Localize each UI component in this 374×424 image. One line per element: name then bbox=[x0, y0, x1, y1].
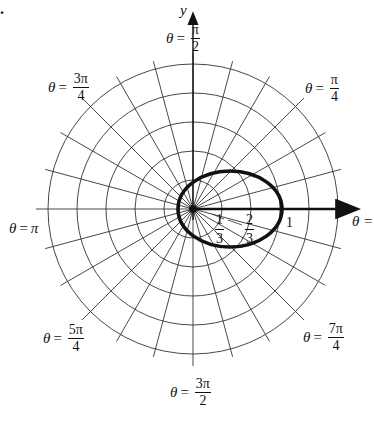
fraction: 5π 4 bbox=[68, 323, 84, 354]
fraction: π 2 bbox=[191, 23, 200, 54]
angle-label-pi-over-4: θ = π 4 bbox=[305, 73, 339, 104]
fraction: 1 3 bbox=[215, 212, 224, 247]
theta-symbol: θ bbox=[170, 385, 177, 400]
numerator: π bbox=[191, 23, 200, 39]
radial-label-one: 1 bbox=[286, 215, 293, 231]
denominator: 4 bbox=[332, 338, 339, 353]
grid-radial-line bbox=[193, 169, 341, 209]
fraction: π 4 bbox=[330, 73, 339, 104]
problem-marker: . bbox=[0, 0, 4, 18]
denominator: 2 bbox=[192, 39, 199, 54]
theta-symbol: θ bbox=[48, 80, 55, 95]
theta-symbol: θ bbox=[9, 221, 16, 236]
leader-two-thirds bbox=[228, 220, 242, 225]
denominator: 4 bbox=[77, 88, 84, 103]
grid-radial-line bbox=[45, 169, 193, 209]
grid-radial-line bbox=[193, 209, 270, 342]
angle-label-3pi-over-4: θ = 3π 4 bbox=[48, 72, 89, 103]
grid-radial-line bbox=[117, 209, 194, 342]
grid-radial-line bbox=[117, 77, 194, 210]
angle-label-7pi-over-4: θ = 7π 4 bbox=[303, 322, 344, 353]
numerator: 2 bbox=[245, 212, 254, 230]
theta-symbol: θ bbox=[305, 81, 312, 96]
equals-sign: = bbox=[176, 31, 184, 46]
equals-sign: = bbox=[315, 81, 323, 96]
origin-dot bbox=[189, 205, 197, 213]
denominator: 4 bbox=[331, 89, 338, 104]
theta-symbol: θ bbox=[43, 331, 50, 346]
fraction: 3π 2 bbox=[195, 377, 211, 408]
numerator: 1 bbox=[215, 212, 224, 230]
grid-radial-line bbox=[193, 209, 326, 286]
fraction: 3π 4 bbox=[73, 72, 89, 103]
angle-label-zero-partial: θ = bbox=[352, 214, 373, 229]
pi-value: π bbox=[31, 221, 39, 236]
denominator: 3 bbox=[216, 230, 223, 247]
grid-radial-line bbox=[45, 209, 193, 249]
grid-radial-line bbox=[193, 77, 270, 210]
equals-sign: = bbox=[180, 385, 188, 400]
numerator: π bbox=[330, 73, 339, 89]
y-axis-label: y bbox=[180, 2, 187, 19]
theta-symbol: θ bbox=[303, 330, 310, 345]
grid-radial-line bbox=[193, 61, 233, 209]
denominator: 2 bbox=[199, 393, 206, 408]
angle-label-pi-over-2: θ = π 2 bbox=[166, 23, 200, 54]
angle-label-pi: θ = π bbox=[9, 221, 38, 236]
equals-sign: = bbox=[53, 331, 61, 346]
grid-radial-line bbox=[61, 133, 194, 210]
equals-sign: = bbox=[313, 330, 321, 345]
denominator: 4 bbox=[72, 339, 79, 354]
radial-label-two-thirds: 2 3 bbox=[245, 212, 254, 247]
x-axis-label: θ = bbox=[352, 214, 373, 229]
angle-label-5pi-over-4: θ = 5π 4 bbox=[43, 323, 84, 354]
equals-sign: = bbox=[58, 80, 66, 95]
polar-diagram bbox=[0, 0, 374, 424]
equals-sign: = bbox=[19, 221, 27, 236]
fraction: 2 3 bbox=[245, 212, 254, 247]
numerator: 3π bbox=[73, 72, 89, 88]
denominator: 3 bbox=[246, 230, 253, 247]
numerator: 3π bbox=[195, 377, 211, 393]
fraction: 7π 4 bbox=[328, 322, 344, 353]
radial-label-one-third: 1 3 bbox=[215, 212, 224, 247]
grid-radial-line bbox=[193, 133, 326, 210]
numerator: 7π bbox=[328, 322, 344, 338]
grid-radial-line bbox=[61, 209, 194, 286]
angle-label-3pi-over-2: θ = 3π 2 bbox=[170, 377, 211, 408]
grid-radial-line bbox=[193, 209, 233, 357]
theta-symbol: θ bbox=[166, 31, 173, 46]
numerator: 5π bbox=[68, 323, 84, 339]
